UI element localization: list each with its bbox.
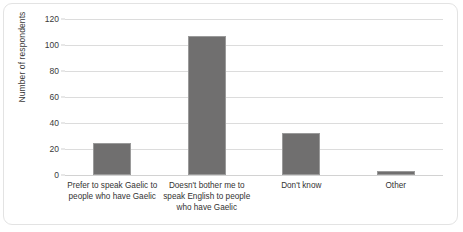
plot-area: 020406080100120 [65,19,443,175]
y-axis-title: Number of respondents [17,0,27,127]
x-axis-category-label: Other [351,180,442,191]
x-axis-category-label: Don't know [256,180,347,191]
y-axis-tick-label: 0 [54,170,59,180]
bar [282,133,320,175]
bar-chart-figure: Number of respondents 020406080100120 Pr… [0,0,463,232]
bar [93,143,131,176]
y-axis-tick-label: 100 [45,40,59,50]
y-axis-tick-label: 120 [45,14,59,24]
bar [188,36,226,175]
y-axis-tick-label: 40 [50,118,59,128]
bar [377,171,415,175]
y-axis-tick-label: 80 [50,66,59,76]
bar-series [65,19,443,175]
y-axis-tick-label: 60 [50,92,59,102]
x-axis-category-label: Doesn't bother me to speak English to pe… [162,180,253,214]
y-axis-tick-label: 20 [50,144,59,154]
gridline [65,175,443,176]
x-axis-category-labels: Prefer to speak Gaelic to people who hav… [65,180,443,226]
x-axis-category-label: Prefer to speak Gaelic to people who hav… [67,180,158,202]
